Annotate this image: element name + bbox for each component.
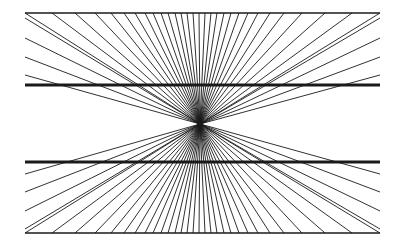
ray <box>200 124 380 233</box>
ray <box>75 124 200 233</box>
radiating-rays <box>25 13 380 233</box>
vanishing-point <box>197 121 203 127</box>
ray <box>200 124 352 233</box>
ray <box>200 124 224 233</box>
hering-illusion-figure <box>0 0 403 250</box>
ray <box>25 38 200 124</box>
ray <box>25 124 200 233</box>
ray <box>25 75 200 124</box>
ray <box>153 124 200 233</box>
ray <box>200 124 325 233</box>
ray <box>25 124 200 192</box>
ray <box>200 13 352 124</box>
ray <box>200 124 380 192</box>
ray <box>75 13 200 124</box>
ray <box>200 18 380 124</box>
ray <box>200 124 380 211</box>
ray <box>25 124 200 174</box>
ray <box>25 57 200 124</box>
ray <box>200 124 284 233</box>
ray <box>153 13 200 124</box>
ray <box>200 13 284 124</box>
ray <box>200 57 380 124</box>
ray <box>52 124 200 233</box>
ray <box>200 13 248 124</box>
ray <box>25 13 200 124</box>
ray <box>111 124 200 233</box>
ray <box>200 13 380 124</box>
ray <box>200 124 248 233</box>
ray <box>200 13 224 124</box>
ray <box>52 13 200 124</box>
hering-illusion-diagram: Hering illusion <box>0 0 403 250</box>
ray <box>200 124 380 229</box>
